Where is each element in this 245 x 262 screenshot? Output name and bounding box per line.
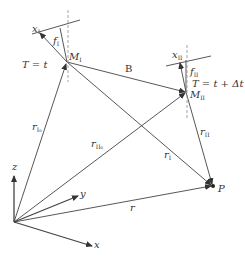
y-axis bbox=[14, 196, 78, 222]
label-x-I: xI bbox=[32, 24, 40, 37]
label-z-axis: z bbox=[12, 162, 17, 172]
label-T-t-dt: T = t + Δt bbox=[192, 79, 243, 89]
vector-r-II0 bbox=[14, 93, 185, 222]
label-r-II0: rII₀ bbox=[91, 139, 103, 152]
label-f-I: fI bbox=[53, 36, 59, 49]
label-B: B bbox=[125, 64, 132, 74]
label-y-axis: y bbox=[80, 189, 86, 199]
x-axis bbox=[14, 222, 92, 246]
focal-f-I bbox=[60, 28, 67, 62]
label-T-t: T = t bbox=[22, 60, 47, 70]
x-II-axis bbox=[180, 63, 186, 92]
diagram-canvas: xI fI MI T = t B xII fII T = t + Δt MII … bbox=[0, 0, 245, 262]
label-x-axis: x bbox=[94, 240, 100, 250]
label-r: r bbox=[130, 203, 135, 213]
label-r-II: rII bbox=[200, 127, 210, 140]
label-r-I0: rI₀ bbox=[32, 122, 42, 135]
label-M-I: MI bbox=[69, 52, 82, 65]
label-x-II: xII bbox=[172, 50, 182, 63]
label-P: P bbox=[218, 184, 225, 194]
point-P bbox=[211, 184, 215, 188]
vector-r bbox=[14, 186, 211, 222]
label-M-II: MII bbox=[190, 90, 205, 103]
vector-r-I0 bbox=[14, 64, 66, 222]
label-r-I: rI bbox=[164, 150, 171, 163]
